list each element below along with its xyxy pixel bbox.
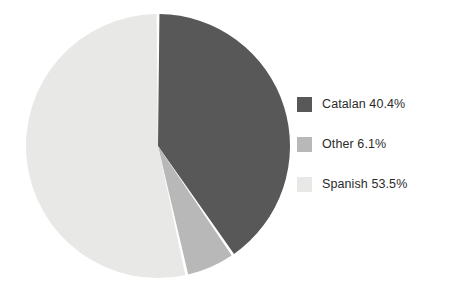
legend-item-other[interactable]: Other 6.1%: [297, 124, 449, 164]
legend-label-spanish: Spanish 53.5%: [322, 177, 407, 191]
legend-swatch-catalan: [297, 97, 312, 112]
legend-label-other: Other 6.1%: [322, 137, 386, 151]
pie-slice-group: [26, 14, 290, 278]
legend-swatch-spanish: [297, 177, 312, 192]
pie-chart-figure: Catalan 40.4% Other 6.1% Spanish 53.5%: [0, 0, 449, 298]
legend-swatch-other: [297, 137, 312, 152]
legend-label-catalan: Catalan 40.4%: [322, 97, 405, 111]
chart-legend: Catalan 40.4% Other 6.1% Spanish 53.5%: [297, 84, 449, 204]
legend-item-catalan[interactable]: Catalan 40.4%: [297, 84, 449, 124]
legend-item-spanish[interactable]: Spanish 53.5%: [297, 164, 449, 204]
pie-chart-graphic: [0, 0, 300, 298]
